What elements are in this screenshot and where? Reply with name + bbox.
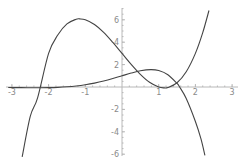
plot-curves (8, 11, 209, 157)
x-tick-label: -3 (8, 88, 16, 97)
x-tick-label: -2 (45, 88, 53, 97)
y-tick-label: 2 (114, 61, 119, 70)
exp-cos-curve (8, 70, 205, 156)
y-tick-label: -4 (111, 128, 119, 137)
x-axis-ticks: -3-2-1123 (8, 84, 235, 97)
x-tick-label: -1 (81, 88, 89, 97)
x-tick-label: 2 (193, 88, 198, 97)
y-tick-label: -2 (111, 105, 119, 114)
function-plot: -3-2-1123 -6-4-2246 (0, 0, 241, 161)
y-tick-label: -6 (111, 150, 119, 159)
x-tick-label: 3 (230, 88, 235, 97)
y-tick-label: 6 (114, 16, 119, 25)
x-tick-label: 1 (156, 88, 161, 97)
